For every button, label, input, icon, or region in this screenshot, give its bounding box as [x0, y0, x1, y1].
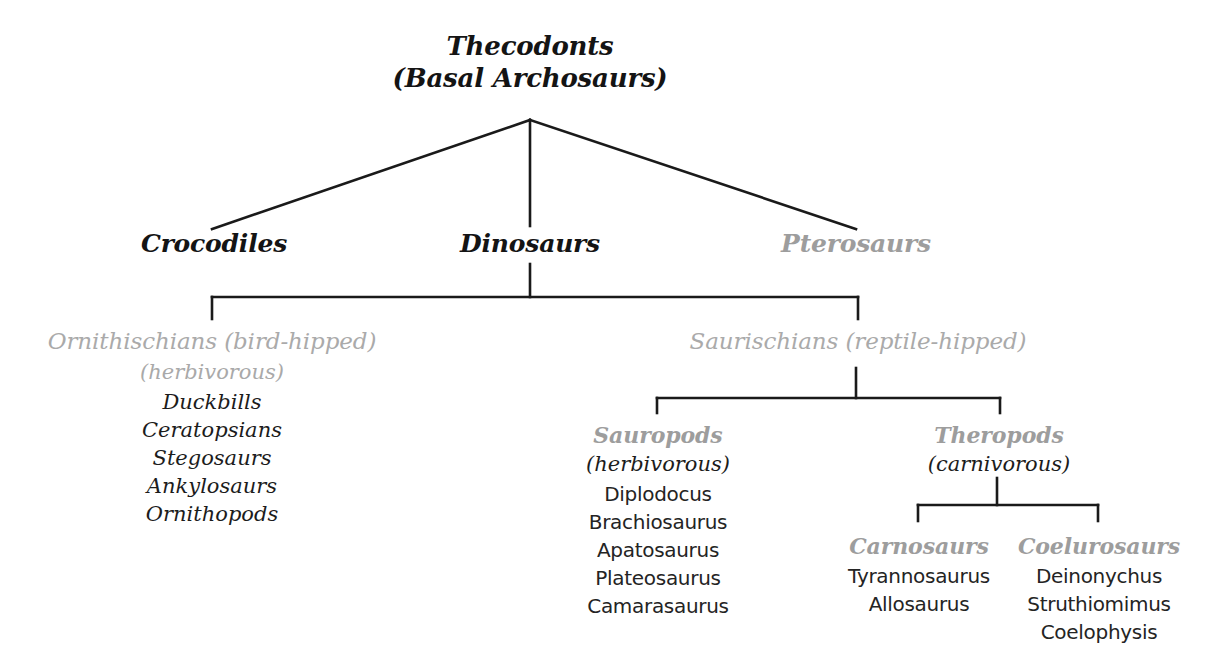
list-item: Struthiomimus	[1018, 594, 1180, 614]
thecodonts-label: Thecodonts	[393, 33, 668, 59]
coelurosaurs-taxa-list: Deinonychus Struthiomimus Coelophysis	[1018, 566, 1180, 642]
list-item: Allosaurus	[848, 594, 990, 614]
carnosaurs-heading: Carnosaurs	[848, 535, 990, 557]
list-item: Ornithopods	[48, 504, 377, 525]
ornithischians-taxa-list: Duckbills Ceratopsians Stegosaurs Ankylo…	[48, 392, 377, 525]
thecodonts-sublabel: (Basal Archosaurs)	[393, 65, 668, 91]
ornithischians-heading: Ornithischians (bird-hipped)	[48, 330, 377, 353]
cladogram-diagram: Thecodonts (Basal Archosaurs) Crocodiles…	[0, 0, 1221, 669]
list-item: Apatosaurus	[586, 540, 730, 560]
node-dinosaurs: Dinosaurs	[460, 231, 600, 256]
carnosaurs-taxa-list: Tyrannosaurus Allosaurus	[848, 566, 990, 614]
node-ornithischians: Ornithischians (bird-hipped) (herbivorou…	[48, 330, 377, 532]
node-crocodiles: Crocodiles	[141, 231, 287, 256]
node-theropods: Theropods (carnivorous)	[928, 424, 1070, 475]
list-item: Duckbills	[48, 392, 377, 413]
node-sauropods: Sauropods (herbivorous) Diplodocus Brach…	[586, 424, 730, 624]
node-coelurosaurs: Coelurosaurs Deinonychus Struthiomimus C…	[1018, 535, 1180, 650]
ornithischians-diet: (herbivorous)	[48, 362, 377, 383]
list-item: Coelophysis	[1018, 622, 1180, 642]
list-item: Brachiosaurus	[586, 512, 730, 532]
list-item: Diplodocus	[586, 484, 730, 504]
edge-thecodonts-pterosaurs	[530, 120, 856, 229]
sauropods-taxa-list: Diplodocus Brachiosaurus Apatosaurus Pla…	[586, 484, 730, 616]
sauropods-diet: (herbivorous)	[586, 454, 730, 475]
theropods-heading: Theropods	[928, 424, 1070, 446]
theropods-diet: (carnivorous)	[928, 454, 1070, 475]
list-item: Camarasaurus	[586, 596, 730, 616]
list-item: Ceratopsians	[48, 420, 377, 441]
list-item: Plateosaurus	[586, 568, 730, 588]
sauropods-heading: Sauropods	[586, 424, 730, 446]
coelurosaurs-heading: Coelurosaurs	[1018, 535, 1180, 557]
node-carnosaurs: Carnosaurs Tyrannosaurus Allosaurus	[848, 535, 990, 622]
node-saurischians: Saurischians (reptile-hipped)	[690, 330, 1027, 353]
list-item: Tyrannosaurus	[848, 566, 990, 586]
node-thecodonts: Thecodonts (Basal Archosaurs)	[393, 33, 668, 91]
node-pterosaurs: Pterosaurs	[781, 231, 931, 256]
edge-thecodonts-crocodiles	[212, 120, 530, 229]
list-item: Ankylosaurs	[48, 476, 377, 497]
list-item: Stegosaurs	[48, 448, 377, 469]
list-item: Deinonychus	[1018, 566, 1180, 586]
